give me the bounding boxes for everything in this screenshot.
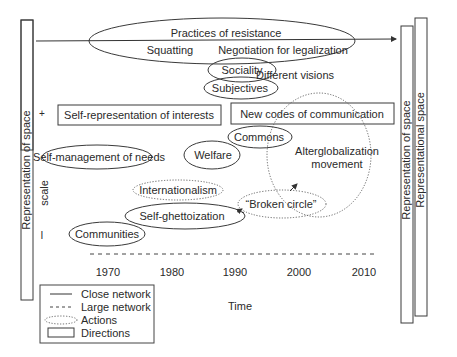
svg-text:Welfare: Welfare bbox=[194, 149, 232, 161]
self-representation-box: Self-representation of interests bbox=[58, 105, 221, 125]
svg-text:Commons: Commons bbox=[234, 131, 285, 143]
svg-text:Representational space: Representational space bbox=[414, 92, 426, 208]
svg-text:Subjectives: Subjectives bbox=[212, 82, 269, 94]
svg-text:movement: movement bbox=[311, 158, 362, 170]
legend-directions: Directions bbox=[81, 327, 130, 339]
diagram-canvas: Representation of space + scale I Practi… bbox=[0, 0, 457, 357]
left-bar-representation-of-space: Representation of space bbox=[20, 20, 33, 300]
self-management-ellipse: Self-management of needs bbox=[33, 145, 166, 169]
svg-text:Communities: Communities bbox=[75, 228, 140, 240]
squatting-label: Squatting bbox=[147, 44, 193, 56]
practices-arrow bbox=[36, 39, 396, 41]
left-bar-label: Representation of space bbox=[20, 110, 32, 229]
internationalism-ellipse: Internationalism bbox=[133, 180, 223, 200]
svg-text:Representation of space: Representation of space bbox=[400, 100, 412, 219]
practices-of-resistance-ellipse: Practices of resistance Squatting Negoti… bbox=[89, 18, 355, 64]
legend-actions: Actions bbox=[81, 314, 118, 326]
tick-2000: 2000 bbox=[287, 266, 311, 278]
tick-1970: 1970 bbox=[96, 266, 120, 278]
time-label: Time bbox=[228, 300, 252, 312]
svg-text:Self-representation of interes: Self-representation of interests bbox=[64, 109, 214, 121]
practices-title: Practices of resistance bbox=[171, 27, 282, 39]
broken-circle-ellipse: “Broken circle” bbox=[238, 190, 326, 218]
legend-large-network: Large network bbox=[81, 301, 151, 313]
tick-1990: 1990 bbox=[223, 266, 247, 278]
negotiation-label: Negotiation for legalization bbox=[218, 44, 348, 56]
svg-text:“Broken circle”: “Broken circle” bbox=[246, 198, 317, 210]
scale-minus: I bbox=[41, 230, 44, 241]
welfare-ellipse: Welfare bbox=[184, 141, 240, 169]
arrow-broken-circle-to-alterglobalization bbox=[290, 184, 297, 191]
different-visions-label: Different visions bbox=[256, 69, 335, 81]
svg-text:Internationalism: Internationalism bbox=[139, 184, 217, 196]
scale-label: scale bbox=[38, 180, 50, 206]
svg-text:Self-management of needs: Self-management of needs bbox=[33, 151, 166, 163]
legend-close-network: Close network bbox=[81, 288, 151, 300]
communities-ellipse: Communities bbox=[69, 222, 145, 246]
legend: Close network Large network Actions Dire… bbox=[40, 285, 154, 343]
scale-plus: + bbox=[39, 108, 45, 119]
svg-text:New codes of communication: New codes of communication bbox=[240, 108, 384, 120]
new-codes-box: New codes of communication bbox=[231, 103, 394, 124]
svg-text:Self-ghettoization: Self-ghettoization bbox=[140, 210, 225, 222]
self-ghettoization-ellipse: Self-ghettoization bbox=[125, 203, 245, 229]
svg-text:Alterglobalization: Alterglobalization bbox=[295, 145, 379, 157]
tick-1980: 1980 bbox=[160, 266, 184, 278]
right-bar-representation-of-space: Representation of space bbox=[400, 26, 413, 323]
commons-ellipse: Commons bbox=[228, 126, 292, 148]
right-bar-representational-space: Representational space bbox=[414, 18, 427, 316]
tick-2010: 2010 bbox=[352, 266, 376, 278]
